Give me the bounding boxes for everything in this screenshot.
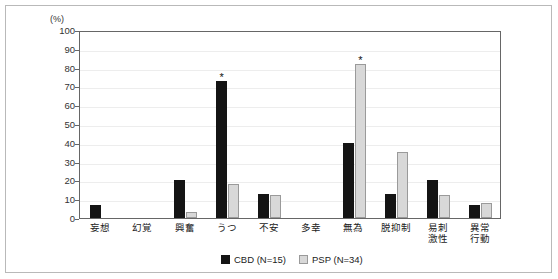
chart-figure: (%) 1009080706050403020100 ** 妄想幻覚興奮うつ不安…	[5, 5, 552, 273]
y-tick-label: 60	[15, 101, 75, 111]
bar-cbd	[258, 194, 269, 218]
significance-asterisk: *	[220, 73, 224, 82]
bar-psp	[397, 152, 408, 218]
legend-item-psp: PSP (N=34)	[299, 254, 363, 265]
plot-area-wrapper: **	[79, 31, 501, 219]
bar-psp	[481, 203, 492, 218]
bar-group	[174, 32, 197, 218]
bar-cbd	[385, 194, 396, 218]
legend-swatch-psp-icon	[299, 255, 308, 264]
y-tick-label: 30	[15, 158, 75, 168]
bar-cbd	[174, 180, 185, 218]
y-tick-label: 70	[15, 83, 75, 93]
legend-item-cbd: CBD (N=15)	[221, 254, 286, 265]
legend-label: PSP (N=34)	[312, 254, 363, 265]
bar-psp	[228, 184, 239, 218]
bar-cbd	[90, 205, 101, 218]
bar-psp: *	[355, 64, 366, 218]
bar-group	[427, 32, 450, 218]
y-tick-mark	[75, 219, 79, 220]
y-tick-label: 90	[15, 45, 75, 55]
chart-legend: CBD (N=15)PSP (N=34)	[221, 254, 363, 265]
plot-area: **	[79, 31, 501, 219]
bar-group	[301, 32, 324, 218]
y-axis-unit-label: (%)	[50, 14, 64, 24]
legend-label: CBD (N=15)	[234, 254, 286, 265]
y-tick-label: 40	[15, 139, 75, 149]
legend-swatch-cbd-icon	[221, 255, 230, 264]
bar-group	[132, 32, 155, 218]
bar-cbd	[427, 180, 438, 218]
x-tick-label: 異常行動	[453, 222, 507, 244]
bar-cbd	[343, 143, 354, 218]
y-tick-label: 100	[15, 26, 75, 36]
bar-psp	[186, 212, 197, 218]
bar-group	[385, 32, 408, 218]
significance-asterisk: *	[358, 56, 362, 65]
bar-group	[258, 32, 281, 218]
bar-group: *	[343, 32, 366, 218]
y-axis-tick-labels: 1009080706050403020100	[11, 31, 75, 219]
y-tick-label: 80	[15, 64, 75, 74]
y-tick-label: 50	[15, 120, 75, 130]
bar-group: *	[216, 32, 239, 218]
bar-cbd: *	[216, 81, 227, 218]
bar-psp	[439, 195, 450, 218]
y-tick-label: 0	[15, 214, 75, 224]
bar-group	[469, 32, 492, 218]
y-tick-label: 20	[15, 177, 75, 187]
bar-psp	[270, 195, 281, 218]
bar-group	[90, 32, 113, 218]
y-tick-label: 10	[15, 195, 75, 205]
bar-cbd	[469, 205, 480, 218]
